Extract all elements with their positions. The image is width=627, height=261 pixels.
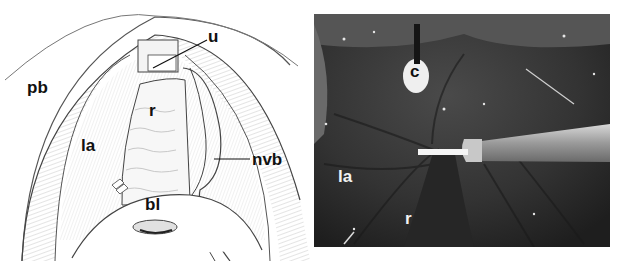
label-c: c — [410, 63, 419, 80]
label-la-photo: la — [338, 168, 352, 185]
label-pb: pb — [27, 79, 48, 96]
label-r: r — [149, 102, 156, 119]
anatomical-drawing-panel: pb u r la nvb bl — [0, 0, 310, 261]
surgical-photo-panel: c la r — [314, 14, 610, 247]
label-la: la — [81, 137, 95, 154]
label-r-photo: r — [405, 210, 412, 227]
label-bl: bl — [145, 196, 160, 213]
photo-image — [314, 14, 610, 247]
drawing-illustration — [0, 0, 310, 261]
label-u: u — [208, 28, 218, 45]
label-nvb: nvb — [252, 151, 282, 168]
